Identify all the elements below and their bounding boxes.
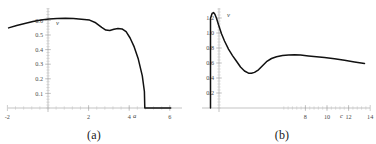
- x-axis-label-a: a: [133, 112, 137, 119]
- y-axis-label-b: v: [227, 11, 230, 18]
- y-tick-label: 0.1: [35, 90, 43, 97]
- x-ticks-b: 8101214: [284, 105, 373, 120]
- panel-caption-b: (b): [188, 128, 376, 143]
- x-tick-label: -2: [5, 113, 10, 120]
- plot-a: -2246 0.10.20.30.40.50.6 v a: [0, 0, 188, 144]
- panel-b: 8101214 0.20.40.60.81.01.2 v c (b): [188, 0, 376, 144]
- x-tick-label: 2: [87, 113, 90, 120]
- x-tick-label: 14: [367, 113, 373, 120]
- x-tick-label: 8: [304, 113, 307, 120]
- x-tick-label: 12: [346, 113, 352, 120]
- curve-b: [211, 13, 365, 108]
- y-tick-label: 0.2: [35, 75, 43, 82]
- axes-a: [8, 8, 182, 112]
- y-tick-label: 0.5: [35, 31, 43, 38]
- y-tick-label: 0.4: [35, 46, 43, 53]
- x-tick-label: 4: [128, 113, 131, 120]
- curve-a: [9, 18, 171, 108]
- x-tick-label: 6: [168, 113, 171, 120]
- plot-b: 8101214 0.20.40.60.81.01.2 v c: [188, 0, 376, 144]
- y-tick-label: 0.3: [35, 60, 43, 67]
- panel-caption-a: (a): [0, 128, 188, 143]
- y-ticks-a: 0.10.20.30.40.50.6: [35, 9, 51, 108]
- y-ticks-b: 0.20.40.60.81.01.2: [206, 9, 222, 108]
- y-axis-label-a: v: [56, 19, 59, 26]
- figure-pair: -2246 0.10.20.30.40.50.6 v a (a) 8101214…: [0, 0, 376, 144]
- x-axis-label-b: c: [340, 112, 343, 119]
- x-tick-label: 10: [324, 113, 330, 120]
- panel-a: -2246 0.10.20.30.40.50.6 v a (a): [0, 0, 188, 144]
